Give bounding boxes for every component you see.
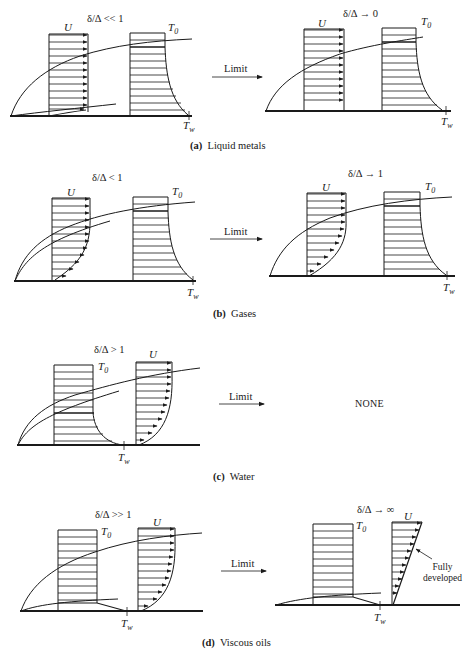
wall-temp-label: Tw xyxy=(374,612,385,623)
limit-label-b: Limit xyxy=(224,226,247,237)
free-stream-temp-label: T0 xyxy=(425,181,435,192)
tw-subscript: w xyxy=(447,121,452,130)
t0-subscript: 0 xyxy=(107,531,111,540)
panel-c-left xyxy=(17,362,200,450)
annotation-line-1: Fully xyxy=(432,562,452,572)
tw-subscript: w xyxy=(380,617,385,626)
ratio-label-c-left: δ/Δ > 1 xyxy=(94,344,124,355)
caption-a: (a) Liquid metals xyxy=(190,141,266,152)
wall-temp-label: Tw xyxy=(183,120,194,131)
wall-temp-label: Tw xyxy=(441,116,452,127)
t0-subscript: 0 xyxy=(178,191,182,200)
t0-subscript: 0 xyxy=(431,186,435,195)
ratio-label-b-right: δ/Δ → 1 xyxy=(348,168,383,179)
free-stream-temp-label: T0 xyxy=(168,22,178,33)
velocity-label: U xyxy=(64,22,72,33)
free-stream-temp-label: T0 xyxy=(356,520,366,531)
caption-text: Water xyxy=(230,471,255,482)
panel-a-right xyxy=(265,28,451,115)
ratio-label-b-left: δ/Δ < 1 xyxy=(92,172,122,183)
wall-temp-label: Tw xyxy=(121,618,132,629)
tw-subscript: w xyxy=(449,287,454,296)
free-stream-temp-label: T0 xyxy=(421,16,431,27)
fully-developed-annotation: Fully developed xyxy=(423,562,462,584)
caption-letter: (a) xyxy=(190,140,202,151)
velocity-label: U xyxy=(318,18,326,29)
t0-subscript: 0 xyxy=(174,27,178,36)
limit-label-c: Limit xyxy=(229,391,252,402)
tw-subscript: w xyxy=(193,292,198,301)
caption-text: Gases xyxy=(231,308,256,319)
wall-temp-label: Tw xyxy=(187,287,198,298)
panel-b-left xyxy=(14,197,196,285)
limit-label-d: Limit xyxy=(231,558,254,569)
ratio-label-a-left: δ/Δ << 1 xyxy=(87,13,123,24)
caption-text: Liquid metals xyxy=(208,140,266,151)
wall-temp-label: Tw xyxy=(443,282,454,293)
panel-d-left xyxy=(20,528,203,616)
caption-letter: (b) xyxy=(213,308,226,319)
caption-letter: (c) xyxy=(213,471,225,482)
free-stream-temp-label: T0 xyxy=(98,361,108,372)
tw-subscript: w xyxy=(189,125,194,134)
velocity-label: U xyxy=(322,182,330,193)
ratio-label-a-right: δ/Δ → 0 xyxy=(343,8,378,19)
panel-b-right xyxy=(269,192,455,280)
no-limit-text: NONE xyxy=(355,398,384,409)
tw-subscript: w xyxy=(127,623,132,632)
ratio-label-d-left: δ/Δ >> 1 xyxy=(95,509,131,520)
caption-b: (b) Gases xyxy=(213,309,256,320)
annotation-line-2: developed xyxy=(423,573,462,583)
velocity-label: U xyxy=(404,511,412,522)
caption-text: Viscous oils xyxy=(220,637,271,648)
caption-c: (c) Water xyxy=(213,472,255,483)
free-stream-temp-label: T0 xyxy=(101,526,111,537)
caption-letter: (d) xyxy=(202,637,215,648)
t0-subscript: 0 xyxy=(427,21,431,30)
ratio-label-d-right: δ/Δ → ∞ xyxy=(357,504,394,515)
limit-label-a: Limit xyxy=(224,63,247,74)
free-stream-temp-label: T0 xyxy=(172,186,182,197)
t0-subscript: 0 xyxy=(362,525,366,534)
wall-temp-label: Tw xyxy=(118,452,129,463)
velocity-label: U xyxy=(67,187,75,198)
velocity-label: U xyxy=(149,349,157,360)
caption-d: (d) Viscous oils xyxy=(202,638,271,649)
panel-a-left xyxy=(10,33,192,120)
t0-subscript: 0 xyxy=(104,366,108,375)
velocity-label: U xyxy=(153,517,161,528)
tw-subscript: w xyxy=(124,457,129,466)
